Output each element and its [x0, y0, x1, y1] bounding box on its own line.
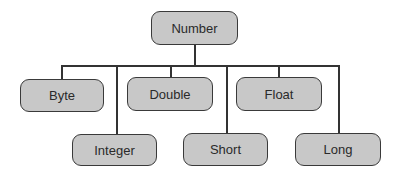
short-connector [226, 65, 228, 133]
node-byte: Byte [20, 79, 104, 112]
root-stem [194, 44, 196, 66]
node-short-label: Short [210, 142, 241, 157]
node-number-label: Number [171, 21, 217, 36]
node-float-label: Float [265, 87, 294, 102]
node-integer: Integer [72, 134, 157, 166]
node-double: Double [127, 77, 213, 111]
node-double-label: Double [149, 87, 190, 102]
node-byte-label: Byte [49, 88, 75, 103]
node-short: Short [183, 133, 268, 166]
float-connector [278, 65, 280, 77]
node-long-label: Long [324, 142, 353, 157]
horizontal-bus [61, 65, 339, 67]
node-number: Number [151, 11, 238, 45]
integer-connector [116, 65, 118, 134]
byte-connector [61, 65, 63, 79]
node-integer-label: Integer [94, 143, 134, 158]
long-connector [338, 65, 340, 133]
double-connector [170, 65, 172, 77]
node-float: Float [236, 77, 322, 111]
node-long: Long [295, 133, 381, 166]
